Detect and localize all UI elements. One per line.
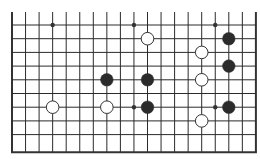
white-stone-icon[interactable] (195, 74, 208, 87)
black-stone-icon[interactable] (223, 101, 236, 114)
star-point-icon (213, 105, 217, 109)
white-stone-icon[interactable] (101, 101, 114, 114)
black-stone-icon[interactable] (141, 74, 154, 87)
white-stone-icon[interactable] (195, 115, 208, 128)
board-grid (11, 12, 257, 152)
star-point-icon (213, 23, 217, 27)
black-stone-icon[interactable] (223, 32, 236, 45)
white-stone-icon[interactable] (141, 32, 154, 45)
star-point-icon (132, 105, 136, 109)
white-stone-icon[interactable] (46, 101, 59, 114)
go-board[interactable] (0, 0, 260, 159)
star-point-icon (50, 23, 54, 27)
black-stone-icon[interactable] (101, 74, 114, 87)
black-stone-icon[interactable] (141, 101, 154, 114)
star-point-icon (132, 23, 136, 27)
black-stone-icon[interactable] (223, 60, 236, 73)
white-stone-icon[interactable] (195, 46, 208, 59)
